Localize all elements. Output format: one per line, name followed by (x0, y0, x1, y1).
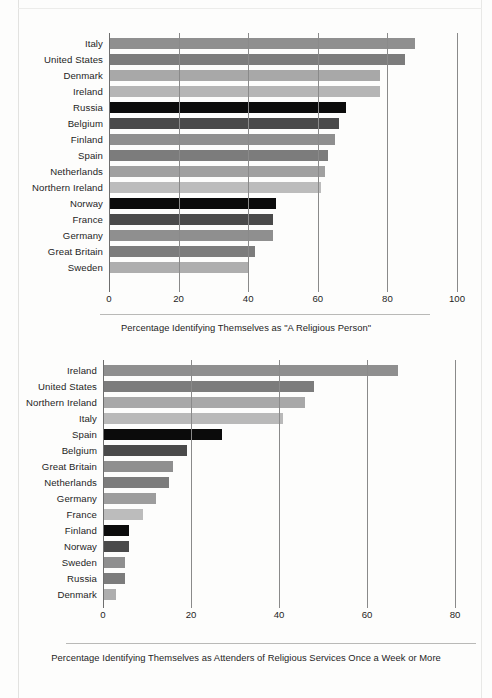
category-label: Spain (72, 429, 97, 440)
category-label: Finland (65, 525, 97, 536)
bar-row: Belgium (0, 445, 492, 456)
bar (103, 397, 305, 408)
category-label: France (67, 509, 97, 520)
bar-row: Russia (0, 573, 492, 584)
chart-weekly-attendance: IrelandUnited StatesNorthern IrelandItal… (0, 0, 492, 698)
category-label: Germany (57, 493, 97, 504)
bar-row: Great Britain (0, 461, 492, 472)
bar (103, 429, 222, 440)
category-label: Great Britain (42, 461, 97, 472)
category-label: Northern Ireland (26, 397, 97, 408)
x-tick-label: 20 (171, 609, 211, 620)
bar (103, 365, 398, 376)
bar-row: Northern Ireland (0, 397, 492, 408)
bar-row: Italy (0, 413, 492, 424)
x-tick-label: 0 (83, 609, 123, 620)
category-label: Ireland (67, 365, 97, 376)
x-tick-label: 40 (259, 609, 299, 620)
chart-2-caption: Percentage Identifying Themselves as Att… (0, 652, 492, 663)
category-label: United States (38, 381, 97, 392)
category-label: Sweden (62, 557, 97, 568)
bar-row: Finland (0, 525, 492, 536)
bar (103, 381, 314, 392)
bar-row: France (0, 509, 492, 520)
x-tick-label: 80 (435, 609, 475, 620)
category-label: Russia (67, 573, 97, 584)
category-label: Netherlands (44, 477, 97, 488)
bar (103, 589, 116, 600)
bar (103, 557, 125, 568)
figure-page: ItalyUnited StatesDenmarkIrelandRussiaBe… (0, 0, 492, 698)
category-label: Denmark (57, 589, 97, 600)
bar-row: Netherlands (0, 477, 492, 488)
gridline-60 (367, 360, 368, 608)
bar (103, 477, 169, 488)
bar (103, 461, 173, 472)
gridline-40 (279, 360, 280, 608)
bar-row: Ireland (0, 365, 492, 376)
gridline-80 (455, 360, 456, 608)
category-label: Norway (64, 541, 97, 552)
bar (103, 541, 129, 552)
category-label: Belgium (62, 445, 97, 456)
caption-rule-bottom (66, 643, 476, 644)
bar-row: Sweden (0, 557, 492, 568)
bar (103, 493, 156, 504)
bar (103, 445, 187, 456)
bar-row: Norway (0, 541, 492, 552)
y-axis-baseline (103, 360, 104, 608)
bar (103, 509, 143, 520)
bar-row: United States (0, 381, 492, 392)
bar-row: Denmark (0, 589, 492, 600)
bar (103, 413, 283, 424)
category-label: Italy (79, 413, 97, 424)
bar (103, 525, 129, 536)
bar-row: Spain (0, 429, 492, 440)
x-tick-label: 60 (347, 609, 387, 620)
caption-rule-top (100, 314, 430, 315)
gridline-20 (191, 360, 192, 608)
bar-row: Germany (0, 493, 492, 504)
bar (103, 573, 125, 584)
